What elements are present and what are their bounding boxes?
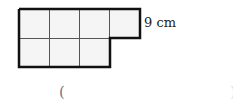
shape-outline — [0, 0, 233, 112]
dimension-label: 9 cm — [144, 15, 176, 30]
grid-figure: 9 cm — [0, 0, 233, 112]
answer-close-paren: ) — [230, 83, 233, 101]
answer-open-paren: ( — [59, 83, 65, 101]
